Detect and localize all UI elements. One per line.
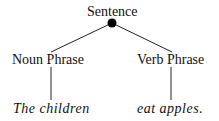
edge-sentence-noun xyxy=(51,23,112,52)
root-label: Sentence xyxy=(87,5,138,19)
edge-sentence-verb xyxy=(112,23,172,52)
root-node-dot xyxy=(108,19,117,28)
noun-phrase-label: Noun Phrase xyxy=(12,53,84,67)
parse-tree-diagram: Sentence Noun Phrase Verb Phrase The chi… xyxy=(0,0,219,121)
noun-phrase-words: The children xyxy=(13,102,90,116)
verb-phrase-label: Verb Phrase xyxy=(137,53,204,67)
verb-phrase-words: eat apples. xyxy=(137,102,203,116)
